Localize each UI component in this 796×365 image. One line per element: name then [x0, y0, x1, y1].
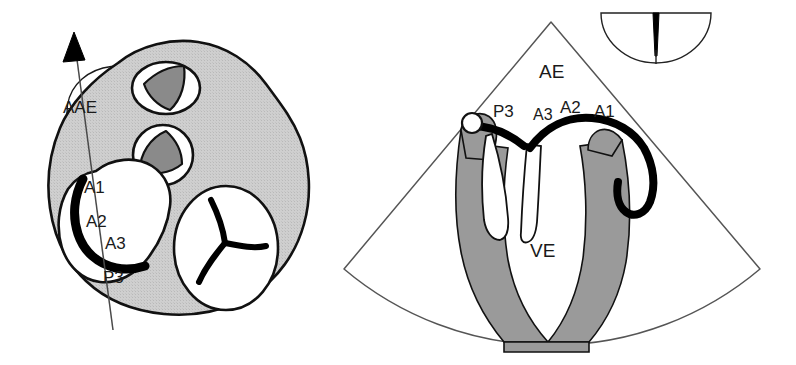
figure-root: AAE A1 A2 A3 P3: [0, 0, 796, 365]
label-a3-left: A3: [105, 234, 126, 253]
annulus-marker-icon: [462, 113, 482, 133]
left-panel-short-axis: AAE A1 A2 A3 P3: [48, 32, 308, 330]
label-ae: AE: [539, 61, 564, 82]
label-a3-right: A3: [533, 106, 553, 123]
label-aae: AAE: [63, 98, 97, 117]
label-p3-left: P3: [103, 268, 124, 287]
ventricle-apex-band: [504, 342, 589, 352]
right-panel-apical-sector: AE VE P3 A3 A2 A1: [344, 22, 760, 352]
aortic-valve-group: [132, 62, 200, 114]
cardiac-diagram-canvas: AAE A1 A2 A3 P3: [0, 0, 796, 365]
scan-plane-arrow-icon: [63, 32, 85, 62]
label-p3-right: P3: [493, 102, 514, 121]
label-a1-right: A1: [594, 102, 615, 121]
label-ve: VE: [530, 240, 555, 261]
transducer-orientation-inset: [601, 13, 711, 64]
label-a2-left: A2: [86, 212, 107, 231]
tricuspid-chamber-group: [174, 186, 278, 310]
label-a2-right: A2: [560, 98, 581, 117]
label-a1-left: A1: [84, 178, 105, 197]
